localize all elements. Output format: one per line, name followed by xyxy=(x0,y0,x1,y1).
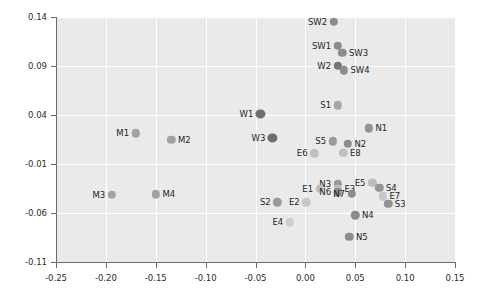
point-label-n6: N6 xyxy=(319,188,331,197)
point-label-s1: S1 xyxy=(320,101,331,110)
gridline-horizontal-1 xyxy=(56,213,455,214)
data-point-sw3[interactable] xyxy=(338,49,346,57)
y-tick-label-5: 0.14 xyxy=(0,13,47,22)
x-tick-mark-5 xyxy=(305,263,306,268)
gridline-horizontal-5 xyxy=(56,17,455,18)
data-point-n4[interactable] xyxy=(351,211,359,219)
x-tick-label-8: 0.15 xyxy=(446,274,465,283)
data-point-sw2[interactable] xyxy=(330,18,338,26)
point-label-sw3: SW3 xyxy=(349,49,368,58)
data-point-w3[interactable] xyxy=(268,133,277,142)
x-tick-mark-1 xyxy=(106,263,107,268)
data-point-m4[interactable] xyxy=(152,190,160,198)
point-label-w2: W2 xyxy=(317,61,331,70)
data-point-m3[interactable] xyxy=(108,191,116,199)
x-tick-mark-0 xyxy=(56,263,57,268)
y-tick-label-3: 0.04 xyxy=(0,111,47,120)
x-tick-mark-4 xyxy=(256,263,257,268)
x-tick-label-2: -0.15 xyxy=(145,274,167,283)
data-point-s2[interactable] xyxy=(273,198,281,206)
point-label-n7: N7 xyxy=(333,190,345,199)
scatter-plot-figure: SW2SW1SW3W2SW4S1W1N1M1W3M2S5N2E6E8E5N3S4… xyxy=(0,0,478,303)
x-tick-label-0: -0.25 xyxy=(45,274,67,283)
gridline-vertical-5 xyxy=(305,17,306,262)
y-tick-label-2: -0.01 xyxy=(0,160,47,169)
point-label-s5: S5 xyxy=(315,137,326,146)
y-tick-label-0: -0.11 xyxy=(0,258,47,267)
x-tick-label-4: -0.05 xyxy=(245,274,267,283)
point-label-m4: M4 xyxy=(162,190,175,199)
gridline-vertical-1 xyxy=(106,17,107,262)
point-label-m1: M1 xyxy=(116,129,129,138)
point-label-e6: E6 xyxy=(297,149,308,158)
data-point-w1[interactable] xyxy=(256,109,265,118)
point-label-sw2: SW2 xyxy=(308,17,327,26)
data-point-m2[interactable] xyxy=(167,136,175,144)
point-label-e4: E4 xyxy=(272,218,283,227)
point-label-m2: M2 xyxy=(178,136,191,145)
data-point-e4[interactable] xyxy=(286,218,294,226)
y-tick-label-1: -0.06 xyxy=(0,209,47,218)
x-tick-mark-3 xyxy=(206,263,207,268)
y-tick-mark-1 xyxy=(51,213,56,214)
data-point-e8[interactable] xyxy=(339,149,347,157)
point-label-n5: N5 xyxy=(356,232,368,241)
y-tick-mark-2 xyxy=(51,164,56,165)
data-point-s5[interactable] xyxy=(329,137,337,145)
y-tick-mark-4 xyxy=(51,66,56,67)
gridline-horizontal-2 xyxy=(56,164,455,165)
point-label-n1: N1 xyxy=(375,124,387,133)
point-label-e5: E5 xyxy=(355,178,366,187)
point-label-e2: E2 xyxy=(289,198,300,207)
point-label-w1: W1 xyxy=(240,109,254,118)
data-point-e6[interactable] xyxy=(310,149,318,157)
x-tick-label-6: 0.05 xyxy=(346,274,365,283)
x-tick-label-3: -0.10 xyxy=(195,274,217,283)
plot-panel: SW2SW1SW3W2SW4S1W1N1M1W3M2S5N2E6E8E5N3S4… xyxy=(56,17,455,262)
x-tick-label-7: 0.10 xyxy=(396,274,415,283)
data-point-s3[interactable] xyxy=(384,199,392,207)
y-axis-spine xyxy=(56,17,57,263)
gridline-vertical-3 xyxy=(206,17,207,262)
x-tick-mark-6 xyxy=(355,263,356,268)
x-tick-mark-2 xyxy=(156,263,157,268)
y-tick-label-4: 0.09 xyxy=(0,62,47,71)
point-label-s2: S2 xyxy=(260,198,271,207)
x-tick-mark-7 xyxy=(405,263,406,268)
data-point-s4[interactable] xyxy=(375,183,383,191)
x-tick-label-5: 0.00 xyxy=(296,274,315,283)
data-point-n1[interactable] xyxy=(365,124,373,132)
y-tick-mark-5 xyxy=(51,17,56,18)
data-point-n5[interactable] xyxy=(345,232,353,240)
point-label-m3: M3 xyxy=(92,191,105,200)
y-tick-mark-3 xyxy=(51,115,56,116)
x-tick-label-1: -0.20 xyxy=(95,274,117,283)
data-point-sw4[interactable] xyxy=(340,66,348,74)
point-label-sw4: SW4 xyxy=(350,66,369,75)
gridline-vertical-7 xyxy=(405,17,406,262)
point-label-e1: E1 xyxy=(302,185,313,194)
point-label-w3: W3 xyxy=(252,134,266,143)
gridline-vertical-2 xyxy=(156,17,157,262)
point-label-n4: N4 xyxy=(362,211,374,220)
gridline-horizontal-4 xyxy=(56,66,455,67)
point-label-s3: S3 xyxy=(395,199,406,208)
data-point-m1[interactable] xyxy=(132,129,140,137)
data-point-s1[interactable] xyxy=(334,101,342,109)
point-label-e8: E8 xyxy=(350,148,361,157)
x-tick-mark-8 xyxy=(455,263,456,268)
point-label-sw1: SW1 xyxy=(312,42,331,51)
data-point-e2[interactable] xyxy=(302,198,310,206)
